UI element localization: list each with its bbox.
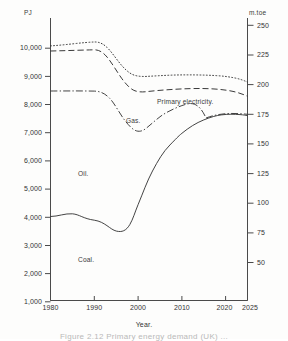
right-tick-75: 75: [257, 229, 265, 236]
right-tick-150: 150: [257, 140, 269, 147]
series-label-gas: Gas.: [126, 117, 141, 124]
left-tick-8000: 8,000: [8, 101, 42, 108]
right-tick-225: 225: [257, 51, 269, 58]
series-label-coal: Coal.: [78, 256, 94, 263]
series-label-primary-electricity: Primary electricity.: [157, 98, 213, 105]
left-tick-3000: 3,000: [8, 242, 42, 249]
left-tick-4000: 4,000: [8, 214, 42, 221]
right-tick-250: 250: [257, 22, 269, 29]
right-axis-ticks: [248, 25, 254, 262]
right-tick-200: 200: [257, 81, 269, 88]
series-curve-total-boundary: [51, 42, 248, 82]
x-axis-ticks: [51, 293, 248, 301]
left-tick-7000: 7,000: [8, 129, 42, 136]
x-tick-1980: 1980: [36, 304, 66, 311]
x-tick-1990: 1990: [79, 304, 109, 311]
left-tick-5000: 5,000: [8, 185, 42, 192]
right-tick-175: 175: [257, 111, 269, 118]
left-tick-6000: 6,000: [8, 157, 42, 164]
left-tick-2000: 2,000: [8, 270, 42, 277]
x-tick-2025: 2025: [235, 304, 265, 311]
series-curve-gas-boundary: [51, 50, 248, 97]
right-tick-100: 100: [257, 199, 269, 206]
left-tick-10000: 10,000: [8, 44, 42, 51]
series-curve-oil-boundary: [51, 91, 248, 131]
x-tick-2000: 2000: [123, 304, 153, 311]
series-label-oil: Oil.: [78, 170, 89, 177]
figure-caption: Figure 2.12 Primary energy demand (UK) .…: [0, 332, 288, 341]
right-tick-50: 50: [257, 259, 265, 266]
left-axis-ticks: [45, 48, 51, 302]
right-tick-125: 125: [257, 170, 269, 177]
left-tick-9000: 9,000: [8, 73, 42, 80]
x-axis-title: Year.: [0, 321, 288, 328]
x-tick-2010: 2010: [167, 304, 197, 311]
